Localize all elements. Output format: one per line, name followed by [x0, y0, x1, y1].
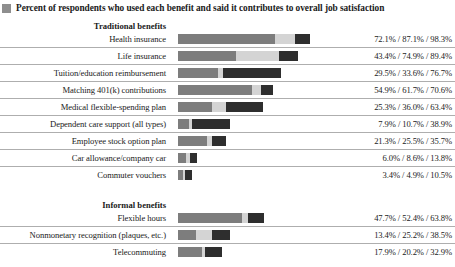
stacked-bar: [178, 34, 310, 44]
bar-segment-3: [223, 68, 281, 78]
category-label: Employee stock option plan: [0, 133, 172, 149]
value-label: 7.9% / 10.7% / 38.9%: [352, 116, 455, 132]
bar-segment-1: [178, 68, 218, 78]
value-label: 29.5% / 33.6% / 76.7%: [352, 65, 455, 81]
category-label: Telecommuting: [0, 244, 172, 260]
category-label: Life insurance: [0, 48, 172, 64]
value-label: 47.7% / 52.4% / 63.8%: [352, 210, 455, 226]
bar-plot-area: [172, 116, 352, 132]
chart-row: Medical flexible-spending plan25.3% / 36…: [0, 99, 455, 116]
chart-body: Traditional benefitsHealth insurance72.1…: [0, 18, 455, 261]
bar-segment-3: [190, 153, 197, 163]
bar-segment-1: [178, 153, 186, 163]
bar-plot-area: [172, 48, 352, 64]
bar-segment-1: [178, 247, 202, 257]
bar-segment-2: [275, 34, 295, 44]
bar-plot-area: [172, 167, 352, 183]
group-heading: Traditional benefits: [0, 18, 455, 31]
bar-plot-area: [172, 99, 352, 115]
category-label: Dependent care support (all types): [0, 116, 172, 132]
category-label: Commuter vouchers: [0, 167, 172, 183]
stacked-bar: [178, 230, 230, 240]
bar-segment-3: [212, 230, 230, 240]
value-label: 3.4% / 4.9% / 10.5%: [352, 167, 455, 183]
category-label: Car allowance/company car: [0, 150, 172, 166]
value-label: 43.4% / 74.9% / 89.4%: [352, 48, 455, 64]
bar-segment-3: [248, 213, 263, 223]
legend-square-icon: [2, 4, 11, 13]
chart-row: Tuition/education reimbursement29.5% / 3…: [0, 65, 455, 82]
category-label: Health insurance: [0, 31, 172, 47]
bar-plot-area: [172, 227, 352, 243]
bar-segment-3: [279, 51, 299, 61]
chart-row: Employee stock option plan21.3% / 25.5% …: [0, 133, 455, 150]
stacked-bar: [178, 170, 192, 180]
value-label: 25.3% / 36.0% / 63.4%: [352, 99, 455, 115]
bar-plot-area: [172, 65, 352, 81]
value-label: 21.3% / 25.5% / 35.7%: [352, 133, 455, 149]
chart-row: Telecommuting17.9% / 20.2% / 32.9%: [0, 244, 455, 261]
stacked-bar: [178, 85, 273, 95]
category-label: Nonmonetary recognition (plaques, etc.): [0, 227, 172, 243]
bar-plot-area: [172, 82, 352, 98]
bar-segment-1: [178, 230, 196, 240]
bar-plot-area: [172, 210, 352, 226]
stacked-bar: [178, 213, 264, 223]
chart-row: Life insurance43.4% / 74.9% / 89.4%: [0, 48, 455, 65]
bar-plot-area: [172, 133, 352, 149]
bar-segment-2: [252, 85, 261, 95]
bar-segment-2: [236, 51, 278, 61]
category-label: Flexible hours: [0, 210, 172, 226]
chart-legend: Percent of respondents who used each ben…: [2, 2, 453, 15]
bar-segment-2: [196, 230, 212, 240]
group-title: Informal benefits: [0, 201, 172, 210]
group-title: Traditional benefits: [0, 22, 172, 31]
bar-segment-1: [178, 34, 275, 44]
bar-segment-3: [185, 170, 193, 180]
stacked-bar: [178, 247, 222, 257]
stacked-bar: [178, 51, 298, 61]
chart-row: Dependent care support (all types)7.9% /…: [0, 116, 455, 133]
value-label: 54.9% / 61.7% / 70.6%: [352, 82, 455, 98]
bar-segment-3: [295, 34, 310, 44]
group-heading: Informal benefits: [0, 197, 455, 210]
chart-figure: Percent of respondents who used each ben…: [0, 0, 455, 267]
bar-segment-3: [226, 102, 263, 112]
chart-row: Nonmonetary recognition (plaques, etc.)1…: [0, 227, 455, 244]
group-spacer: [0, 184, 455, 197]
chart-row: Flexible hours47.7% / 52.4% / 63.8%: [0, 210, 455, 227]
value-label: 72.1% / 87.1% / 98.3%: [352, 31, 455, 47]
bar-segment-1: [178, 51, 236, 61]
bar-segment-3: [192, 119, 230, 129]
stacked-bar: [178, 153, 197, 163]
stacked-bar: [178, 136, 226, 146]
bar-segment-1: [178, 119, 189, 129]
bar-segment-1: [178, 136, 207, 146]
bar-segment-3: [261, 85, 273, 95]
value-label: 17.9% / 20.2% / 32.9%: [352, 244, 455, 260]
bar-segment-3: [205, 247, 222, 257]
bar-plot-area: [172, 150, 352, 166]
category-label: Tuition/education reimbursement: [0, 65, 172, 81]
legend-label: Percent of respondents who used each ben…: [16, 4, 384, 13]
bar-segment-1: [178, 85, 252, 95]
category-label: Medical flexible-spending plan: [0, 99, 172, 115]
value-label: 13.4% / 25.2% / 38.5%: [352, 227, 455, 243]
stacked-bar: [178, 119, 230, 129]
bar-plot-area: [172, 31, 352, 47]
bar-plot-area: [172, 244, 352, 260]
bar-segment-1: [178, 102, 212, 112]
bar-segment-2: [212, 102, 226, 112]
stacked-bar: [178, 68, 281, 78]
chart-row: Commuter vouchers3.4% / 4.9% / 10.5%: [0, 167, 455, 184]
category-label: Matching 401(k) contributions: [0, 82, 172, 98]
stacked-bar: [178, 102, 263, 112]
chart-row: Car allowance/company car6.0% / 8.6% / 1…: [0, 150, 455, 167]
chart-row: Health insurance72.1% / 87.1% / 98.3%: [0, 31, 455, 48]
bar-segment-1: [178, 213, 242, 223]
value-label: 6.0% / 8.6% / 13.8%: [352, 150, 455, 166]
chart-row: Matching 401(k) contributions54.9% / 61.…: [0, 82, 455, 99]
bar-segment-3: [212, 136, 226, 146]
